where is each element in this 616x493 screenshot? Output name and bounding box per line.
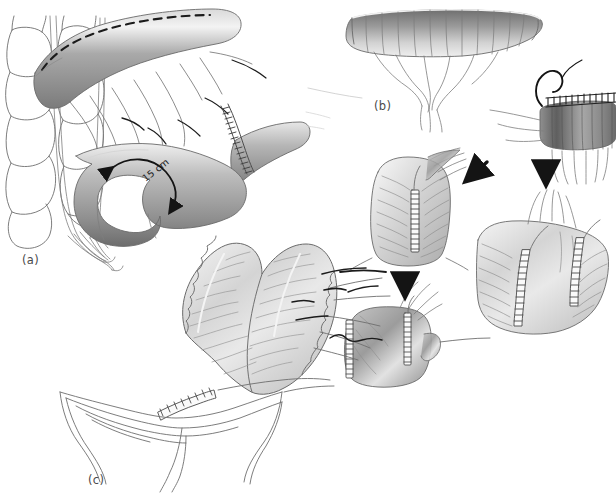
pouch-front-view — [350, 148, 468, 270]
panel-a-artwork — [6, 9, 310, 262]
panel-b-artwork — [306, 10, 616, 387]
pouch-staple-line-front — [411, 190, 419, 252]
completed-pouch — [344, 282, 490, 387]
completed-pouch-staple-left — [346, 320, 353, 378]
illustration-canvas — [0, 0, 616, 493]
arrow-diagonal-left — [467, 162, 487, 180]
panel-label-c: (c) — [88, 473, 104, 487]
panel-label-b: (b) — [374, 99, 391, 113]
shaded-bowel-limb-with-dashed-incision-line — [34, 9, 241, 108]
panel-label-a: (a) — [22, 253, 39, 267]
j-pouch-limbs — [183, 236, 337, 394]
suture-needle-with-thread — [536, 60, 582, 106]
panel-c-artwork — [60, 232, 390, 492]
mesentery-fan-top-b — [374, 52, 498, 132]
bowel-cuff-segment — [490, 60, 616, 184]
opened-bowel-flat-segment — [346, 10, 542, 57]
rectal-limb-shaded — [231, 122, 310, 181]
pouch-open-view — [477, 190, 609, 334]
surgical-figure: (a) (b) (c) 15 cm — [0, 0, 616, 493]
completed-pouch-staple-center — [404, 313, 411, 365]
